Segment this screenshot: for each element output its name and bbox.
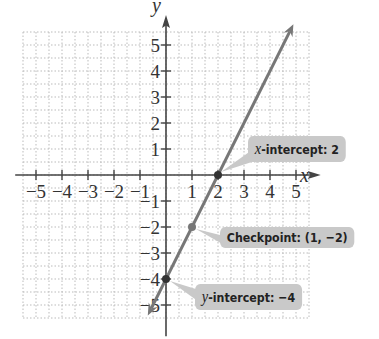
svg-text:−4: −4 <box>52 181 73 202</box>
svg-text:−4: −4 <box>140 269 161 290</box>
svg-text:4: 4 <box>151 61 161 82</box>
callout-text: Checkpoint: (1, −2) <box>227 230 348 245</box>
svg-text:1: 1 <box>151 139 161 160</box>
svg-text:−3: −3 <box>78 181 98 202</box>
svg-text:−2: −2 <box>140 217 160 238</box>
coordinate-plane: −5−4−3−2−112345−5−4−3−2−112345 x y <box>0 0 379 339</box>
svg-text:−5: −5 <box>26 181 46 202</box>
callout-x-intercept: x-intercept: 2 <box>248 136 346 162</box>
callout-text: -intercept: 2 <box>261 142 339 157</box>
callout-y-intercept: y-intercept: −4 <box>195 284 302 310</box>
callout-text: -intercept: −4 <box>208 290 295 305</box>
svg-text:3: 3 <box>151 87 161 108</box>
y-axis-label: y <box>150 0 161 17</box>
callout-checkpoint: Checkpoint: (1, −2) <box>220 227 354 248</box>
svg-text:4: 4 <box>265 181 275 202</box>
svg-text:3: 3 <box>239 181 249 202</box>
svg-text:1: 1 <box>187 181 197 202</box>
svg-text:−1: −1 <box>140 191 160 212</box>
svg-text:−2: −2 <box>104 181 124 202</box>
svg-text:2: 2 <box>151 113 161 134</box>
line-graph <box>148 24 294 315</box>
svg-text:5: 5 <box>151 35 161 56</box>
svg-text:−3: −3 <box>140 243 160 264</box>
x-axis-label: x <box>299 164 309 186</box>
